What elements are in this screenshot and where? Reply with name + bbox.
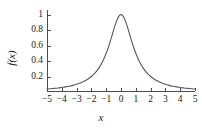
x-tick-mark [151, 88, 152, 91]
x-tick-label: −1 [101, 95, 111, 105]
x-tick-mark [91, 88, 92, 91]
x-tick-mark [77, 88, 78, 91]
y-tick-label: 1 [38, 10, 43, 20]
y-tick-mark [48, 30, 51, 31]
x-tick-label: 5 [193, 95, 198, 105]
x-tick-mark [106, 88, 107, 91]
x-tick-label: −3 [72, 95, 82, 105]
x-tick-label: −2 [86, 95, 96, 105]
y-tick-label: 0.8 [31, 25, 43, 35]
x-tick-label: 2 [148, 95, 153, 105]
x-tick-mark [165, 88, 166, 91]
plot-area [47, 10, 195, 92]
x-tick-label: −4 [57, 95, 67, 105]
y-tick-mark [48, 61, 51, 62]
y-tick-mark [48, 77, 51, 78]
x-tick-mark [180, 88, 181, 91]
x-axis-label: x [0, 112, 202, 123]
x-tick-label: 0 [119, 95, 124, 105]
chart-figure: f(x) 0.20.40.60.81 −5−4−3−2−1012345 x [0, 0, 202, 132]
x-tick-label: 4 [178, 95, 183, 105]
y-tick-mark [48, 46, 51, 47]
y-tick-label: 0.2 [31, 72, 43, 82]
x-tick-mark [62, 88, 63, 91]
x-tick-mark [121, 88, 122, 91]
x-tick-label: −5 [42, 95, 52, 105]
x-axis-tick-labels: −5−4−3−2−1012345 [0, 95, 202, 107]
data-curve [47, 10, 195, 92]
y-tick-label: 0.6 [31, 41, 43, 51]
y-tick-mark [48, 15, 51, 16]
x-tick-mark [195, 88, 196, 91]
x-tick-label: 3 [163, 95, 168, 105]
x-tick-mark [136, 88, 137, 91]
y-tick-label: 0.4 [31, 56, 43, 66]
x-tick-mark [47, 88, 48, 91]
x-tick-label: 1 [133, 95, 138, 105]
